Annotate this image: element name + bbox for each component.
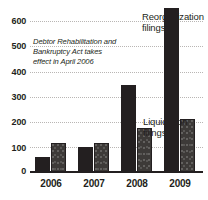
x-axis-baseline bbox=[30, 171, 203, 173]
y-axis-tick-400: 400 bbox=[0, 68, 26, 77]
bar-reorganization-2008 bbox=[121, 85, 136, 172]
series-label-reorganization: Reorganization filings bbox=[142, 11, 208, 33]
bankruptcy-filings-bar-chart: 600 500 400 300 200 100 0 2006 2007 2008… bbox=[0, 0, 208, 200]
y-axis-tick-200: 200 bbox=[0, 118, 26, 127]
bar-reorganization-2007 bbox=[78, 147, 93, 172]
x-axis-label-2006: 2006 bbox=[31, 178, 71, 189]
y-axis-tick-0: 0 bbox=[0, 167, 26, 176]
y-axis-tick-600: 600 bbox=[0, 17, 26, 26]
y-axis-tick-100: 100 bbox=[0, 144, 26, 153]
bar-liquidation-2007 bbox=[94, 143, 109, 172]
x-axis-label-2008: 2008 bbox=[117, 178, 157, 189]
series-label-liquidation: Liquidation filings bbox=[143, 116, 207, 138]
x-axis-label-2009: 2009 bbox=[160, 178, 200, 189]
x-axis-label-2007: 2007 bbox=[74, 178, 114, 189]
chart-annotation: Debtor Rehabilitation and Bankruptcy Act… bbox=[33, 37, 119, 68]
bar-reorganization-2006 bbox=[35, 157, 50, 172]
y-axis-tick-500: 500 bbox=[0, 42, 26, 51]
y-axis-tick-300: 300 bbox=[0, 93, 26, 102]
bar-liquidation-2006 bbox=[51, 143, 66, 172]
